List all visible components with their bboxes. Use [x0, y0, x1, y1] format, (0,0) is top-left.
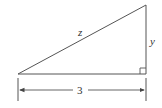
base-dimension-label: 3	[77, 84, 83, 96]
vertical-leg-label: y	[149, 35, 155, 47]
right-angle-marker	[140, 68, 146, 74]
right-triangle	[18, 5, 146, 74]
triangle-diagram: z y 3	[0, 0, 162, 108]
hypotenuse-label: z	[77, 26, 83, 38]
